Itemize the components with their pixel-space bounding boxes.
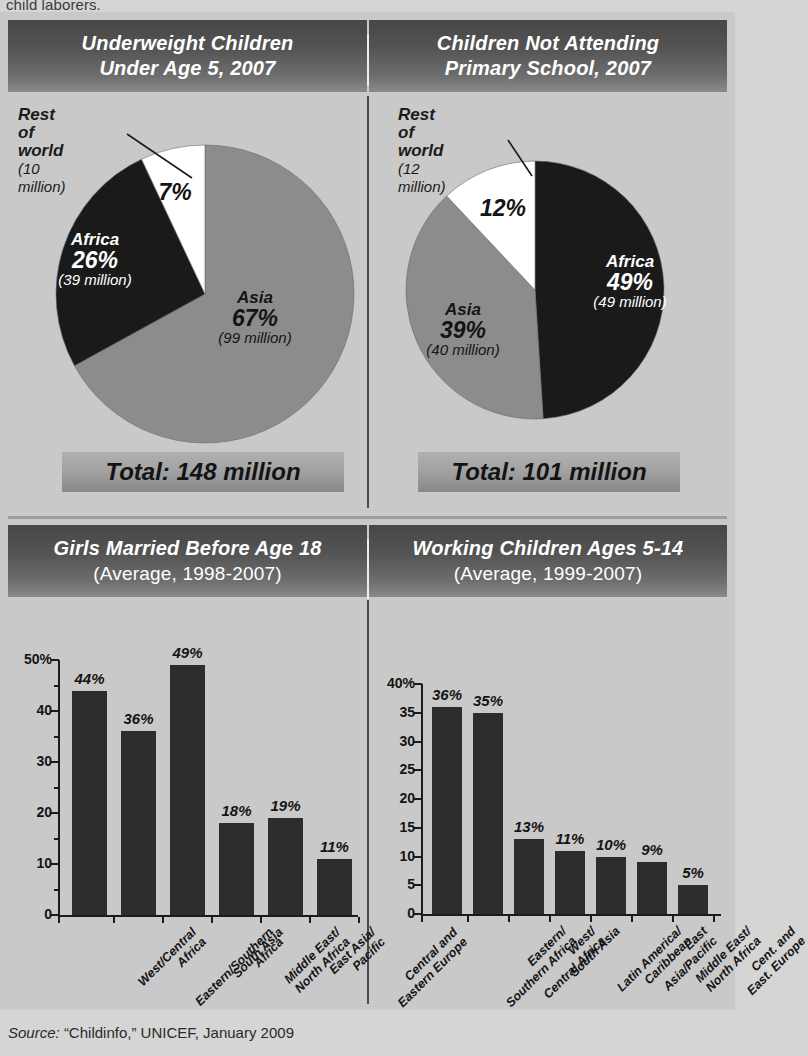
y-axis-tick-label: 30 [369, 733, 415, 749]
panel-header-working-children: Working Children Ages 5-14 (Average, 199… [369, 525, 727, 597]
slice-percent: 67% [190, 308, 320, 328]
y-axis-tick-major [51, 914, 59, 916]
y-axis-tick-label: 0 [6, 906, 52, 922]
source-text: “Childinfo,” UNICEF, January 2009 [64, 1024, 294, 1041]
slice-value: (99 million) [190, 328, 320, 348]
header-divider-bottom [367, 539, 369, 599]
pie-2-total-banner: Total: 101 million [418, 452, 680, 492]
panel-title-line2: Under Age 5, 2007 [99, 56, 275, 81]
callout-value: (10 million) [18, 160, 66, 196]
y-axis-tick-label: 40% [369, 675, 415, 691]
y-axis-tick-label: 5 [369, 876, 415, 892]
y-axis-tick-major [414, 769, 422, 771]
pie-2-slice-label-asia: Asia 39% (40 million) [398, 300, 528, 360]
panel-title-line1: Children Not Attending [437, 31, 660, 56]
pie-1-callout-rest-of-world: Rest of world (10 million) [18, 106, 66, 196]
y-axis-tick-label: 20 [6, 804, 52, 820]
bar [121, 731, 156, 915]
y-axis-tick-label: 15 [369, 819, 415, 835]
x-axis-tick [211, 917, 213, 923]
y-axis-tick-major [414, 712, 422, 714]
pie-1-slice-label-africa: Africa 26% (39 million) [30, 230, 160, 290]
panel-header-children-not-attending: Children Not Attending Primary School, 2… [369, 20, 727, 92]
bar-value-label: 5% [664, 864, 722, 881]
x-axis-tick [713, 916, 715, 922]
slice-percent: 39% [398, 320, 528, 340]
bar [596, 857, 626, 915]
bar [637, 862, 667, 914]
bar [514, 839, 544, 914]
bar-chart-girls-married: 01020304050%44%West/CentralAfrica36%East… [0, 602, 367, 1002]
slice-percent: 26% [30, 250, 160, 270]
bar-value-label: 9% [623, 841, 681, 858]
bar [268, 818, 303, 915]
x-axis-tick [162, 917, 164, 923]
header-divider-top [367, 34, 369, 86]
x-axis-tick [309, 917, 311, 923]
pie-2-slice-label-africa: Africa 49% (49 million) [560, 252, 700, 312]
bar-value-label: 36% [107, 710, 170, 727]
x-axis-tick-origin [58, 917, 60, 923]
callout-name: Rest of world [18, 106, 66, 160]
pie-1-slice-label-asia: Asia 67% (99 million) [190, 288, 320, 348]
y-axis-tick-major [414, 913, 422, 915]
x-axis-line [58, 915, 358, 917]
x-axis-tick [508, 916, 510, 922]
bar [473, 713, 503, 914]
bar-value-label: 44% [58, 670, 121, 687]
x-axis-tick [631, 916, 633, 922]
vertical-divider-top [367, 96, 369, 508]
x-axis-tick [467, 916, 469, 922]
y-axis-tick-major [414, 827, 422, 829]
bar-value-label: 11% [303, 838, 366, 855]
x-axis-tick [113, 917, 115, 923]
bar-value-label: 49% [156, 644, 219, 661]
pie-1-slice-label-rest-of-world: 7% [145, 182, 205, 202]
y-axis-tick-minor [54, 838, 59, 840]
x-axis-category-label: West/CentralAfrica [135, 925, 209, 999]
bar [219, 823, 254, 915]
y-axis-tick-major [51, 659, 59, 661]
source-label: Source: [8, 1024, 60, 1041]
pie-1-total-banner: Total: 148 million [62, 452, 344, 492]
y-axis-tick-label: 10 [369, 848, 415, 864]
y-axis-tick-major [51, 710, 59, 712]
pie-2-slice-label-rest-of-world: 12% [468, 198, 538, 218]
bar [432, 707, 462, 914]
source-caption: Source: “Childinfo,” UNICEF, January 200… [8, 1024, 294, 1041]
callout-value: (12 million) [398, 160, 446, 196]
y-axis-tick-major [414, 683, 422, 685]
callout-name: Rest of world [398, 106, 446, 160]
bar-chart-working-children: 0510152025303540%36%Eastern/Southern Afr… [369, 602, 735, 1002]
x-axis-tick [358, 917, 360, 923]
y-axis-tick-label: 10 [6, 855, 52, 871]
y-axis-tick-major [414, 884, 422, 886]
slice-value: (49 million) [560, 292, 700, 312]
bar [678, 885, 708, 914]
y-axis-tick-major [414, 741, 422, 743]
bar [555, 851, 585, 914]
y-axis-tick-label: 20 [369, 790, 415, 806]
y-axis-tick-minor [54, 787, 59, 789]
y-axis-tick-major [51, 761, 59, 763]
bar [72, 691, 107, 915]
y-axis-tick-major [414, 856, 422, 858]
y-axis-tick-label: 0 [369, 905, 415, 921]
bar-value-label: 19% [254, 797, 317, 814]
y-axis-tick-major [51, 812, 59, 814]
y-axis-tick-major [414, 798, 422, 800]
x-axis-tick [549, 916, 551, 922]
y-axis-tick-label: 35 [369, 704, 415, 720]
y-axis-tick-label: 40 [6, 702, 52, 718]
infographic-figure: Underweight Children Under Age 5, 2007 C… [0, 12, 735, 1010]
y-axis-tick-label: 30 [6, 753, 52, 769]
panel-header-girls-married: Girls Married Before Age 18 (Average, 19… [8, 525, 367, 597]
slice-value: (39 million) [30, 270, 160, 290]
x-axis-line [421, 914, 721, 916]
panel-title-line1: Girls Married Before Age 18 [53, 536, 321, 561]
horizontal-divider [8, 516, 727, 519]
bar [170, 665, 205, 915]
panel-title-line2: Primary School, 2007 [445, 56, 651, 81]
panel-title-line2: (Average, 1998-2007) [93, 561, 282, 586]
bar [317, 859, 352, 915]
